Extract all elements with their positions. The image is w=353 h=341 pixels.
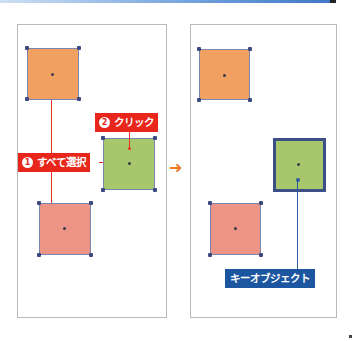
selection-handle — [208, 253, 212, 257]
selection-handle — [197, 98, 201, 102]
key-object-callout: キーオブジェクト — [225, 269, 315, 288]
selection-handle — [77, 46, 81, 50]
selection-handle — [101, 136, 105, 140]
selection-handle — [197, 47, 201, 51]
header-bar — [0, 0, 330, 3]
selection-handle — [89, 201, 93, 205]
key-point — [296, 178, 300, 182]
center-point — [234, 227, 237, 230]
click-point — [128, 147, 131, 150]
selection-handle — [248, 47, 252, 51]
selection-handle — [37, 253, 41, 257]
click-text: クリック — [114, 113, 154, 132]
select-all-connector-vertical — [51, 96, 52, 206]
selection-handle — [25, 97, 29, 101]
select-all-text: すべて選択 — [37, 153, 86, 172]
center-point — [63, 227, 66, 230]
center-point — [51, 73, 54, 76]
selection-handle — [25, 46, 29, 50]
selection-handle — [101, 188, 105, 192]
click-connector — [129, 131, 130, 148]
header-bar-end — [330, 0, 336, 3]
key-object-connector — [297, 179, 298, 270]
selection-handle — [77, 97, 81, 101]
click-callout: 2 クリック — [95, 113, 158, 132]
selection-handle — [153, 188, 157, 192]
step-number-2: 2 — [99, 117, 110, 128]
selection-handle — [248, 98, 252, 102]
step-number-1: 1 — [22, 157, 33, 168]
selection-handle — [259, 201, 263, 205]
selection-handle — [259, 253, 263, 257]
center-point — [223, 74, 226, 77]
center-point — [297, 163, 300, 166]
page-corner-mark — [349, 335, 352, 338]
selection-handle — [89, 253, 93, 257]
select-all-callout: 1 すべて選択 — [18, 153, 90, 172]
selection-handle — [153, 136, 157, 140]
arrow-right-icon: ➜ — [169, 160, 182, 176]
center-point — [128, 162, 131, 165]
selection-handle — [208, 201, 212, 205]
selection-handle — [37, 201, 41, 205]
